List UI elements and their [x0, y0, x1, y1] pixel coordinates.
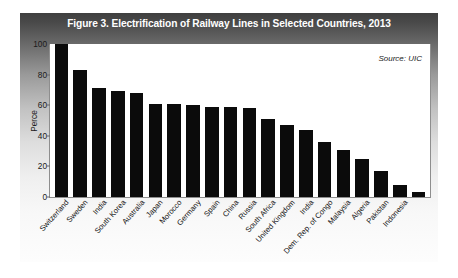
y-axis-tick-label: 100: [33, 39, 47, 49]
bar: [130, 93, 144, 197]
bar: [393, 185, 407, 197]
bar: [412, 192, 426, 197]
y-axis-label: Perce: [29, 110, 39, 132]
bar-slot: [278, 44, 297, 197]
bar-slot: [202, 44, 221, 197]
figure-panel: Figure 3. Electrification of Railway Lin…: [20, 13, 438, 262]
bar: [243, 108, 257, 197]
bar: [149, 104, 163, 197]
bar-slot: [353, 44, 372, 197]
bar: [280, 125, 294, 197]
bar-slot: [390, 44, 409, 197]
bar-slot: [108, 44, 127, 197]
bar: [167, 104, 181, 197]
bar-slot: [409, 44, 428, 197]
y-axis-tick-label: 20: [38, 161, 47, 171]
bar: [92, 88, 106, 197]
bar-slot: [221, 44, 240, 197]
bar: [111, 91, 125, 197]
bar: [224, 107, 238, 197]
bar-slot: [165, 44, 184, 197]
bar-slot: [372, 44, 391, 197]
y-axis-tick-label: 80: [38, 70, 47, 80]
bar-slot: [240, 44, 259, 197]
bar-slot: [334, 44, 353, 197]
bar: [73, 70, 87, 197]
bar-slot: [296, 44, 315, 197]
bar: [186, 105, 200, 197]
bar-slot: [52, 44, 71, 197]
figure-title: Figure 3. Electrification of Railway Lin…: [20, 18, 438, 29]
bar: [337, 150, 351, 197]
bar: [55, 44, 69, 197]
bar: [205, 107, 219, 197]
bar-slot: [71, 44, 90, 197]
bar-slot: [90, 44, 109, 197]
y-axis-tick-label: 40: [38, 131, 47, 141]
bar-slot: [146, 44, 165, 197]
bar-slot: [259, 44, 278, 197]
plot-area: Perce Source: UIC 020406080100: [49, 44, 431, 198]
bar: [318, 142, 332, 197]
bar: [261, 119, 275, 197]
bar-slot: [184, 44, 203, 197]
bar: [355, 159, 369, 197]
bar-series: [50, 44, 430, 197]
x-axis-tick-label: Spain: [202, 198, 222, 218]
bar: [374, 171, 388, 197]
bar-slot: [127, 44, 146, 197]
bar: [299, 130, 313, 197]
y-axis-tick-label: 60: [38, 100, 47, 110]
bar-slot: [315, 44, 334, 197]
